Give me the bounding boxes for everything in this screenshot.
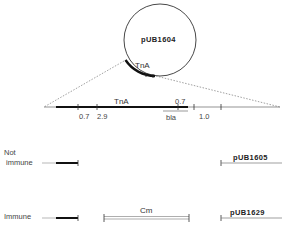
plasmid-tna-label: TnA — [135, 61, 150, 70]
segment-label: 1.0 — [199, 112, 209, 121]
row-label-not: Not — [4, 148, 17, 157]
plasmid-label-pub1629: pUB1629 — [230, 208, 265, 217]
plasmid-name: pUB1604 — [141, 35, 176, 44]
row-label-immune-2: Immune — [4, 212, 31, 221]
segment-label: 2.9 — [97, 112, 107, 121]
segment-label: 0.7 — [175, 97, 185, 106]
row-label-immune: immune — [6, 158, 33, 167]
bla-label: bla — [166, 113, 177, 122]
segment-label: 0.7 — [79, 112, 89, 121]
plasmid-diagram: pUB1604 TnA TnA 0.7 2.9 0.7 1.0 bla Not … — [0, 0, 287, 230]
expansion-line-left — [44, 61, 124, 107]
cm-label: Cm — [140, 206, 153, 215]
linear-tna-label: TnA — [114, 97, 129, 106]
plasmid-label-pub1605: pUB1605 — [233, 153, 268, 162]
